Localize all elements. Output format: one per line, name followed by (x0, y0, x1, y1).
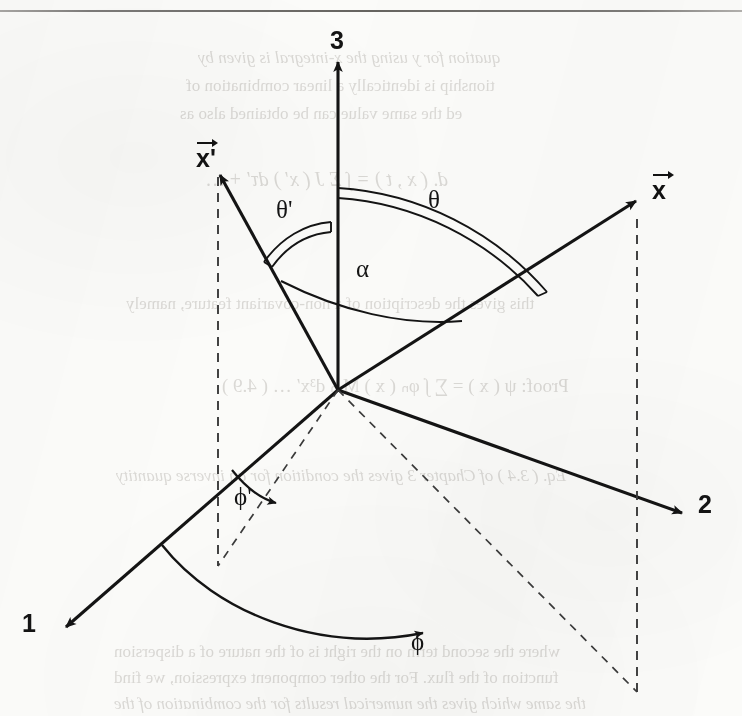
vector-x-glyph: x (652, 178, 666, 203)
angle-theta-arc-cap-end (538, 292, 547, 296)
coordinate-rotation-diagram (0, 0, 742, 716)
vector-arrow-overbar-x-prime (196, 138, 216, 147)
angle-phi-label: ϕ (411, 628, 424, 656)
axis-3-label: 3 (330, 26, 344, 55)
axis-1-line (66, 390, 338, 627)
projection-line-x (338, 390, 637, 692)
angle-theta-prime-label: θ' (276, 196, 292, 224)
angle-alpha-arc (281, 281, 462, 322)
vector-x-line (338, 201, 636, 390)
angle-phi-prime-label: ϕ' (234, 483, 252, 511)
angle-alpha-label: α (356, 255, 369, 283)
vector-x-label: x (652, 170, 666, 203)
axis-2-label: 2 (698, 490, 712, 519)
angle-theta-label: θ (428, 186, 440, 214)
vector-arrow-overbar-x (652, 170, 666, 179)
scanned-page: quation for y using the x-integral is gi… (0, 0, 742, 716)
axis-2-line (338, 390, 682, 513)
vector-x-prime-label: x' (196, 138, 216, 171)
vector-x-prime-glyph: x' (196, 146, 216, 171)
angle-theta-prime-arc-inner (272, 232, 331, 267)
axis-1-label: 1 (22, 609, 36, 638)
angle-phi-arc (162, 545, 423, 639)
